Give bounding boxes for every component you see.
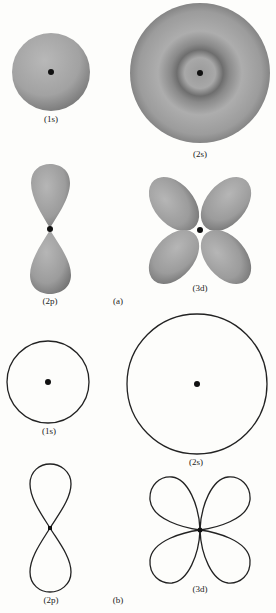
nucleus-dot (194, 381, 200, 387)
shaded-3d-orbital (139, 167, 261, 293)
label-2s-outline: (2s) (189, 457, 203, 467)
nucleus-dot (197, 70, 203, 76)
part-b-tag: (b) (113, 595, 124, 605)
label-3d-outline: (3d) (193, 584, 208, 594)
part-a-tag: (a) (113, 296, 123, 306)
nucleus-dot (48, 69, 54, 75)
label-3d-shaded: (3d) (193, 283, 208, 293)
nucleus-dot (47, 226, 53, 232)
label-1s-shaded: (1s) (44, 114, 58, 124)
label-2s-shaded: (2s) (193, 149, 207, 159)
label-1s-outline: (1s) (42, 426, 56, 436)
nucleus-dot (198, 528, 203, 533)
shaded-1s-orbital (12, 33, 90, 111)
nucleus-dot (197, 227, 203, 233)
orbital-figure (0, 0, 276, 613)
label-2p-shaded: (2p) (43, 296, 58, 306)
shaded-2s-orbital (130, 3, 270, 143)
shaded-2p-orbital (30, 164, 71, 294)
nucleus-dot (45, 379, 51, 385)
nucleus-dot (48, 526, 52, 530)
label-2p-outline: (2p) (44, 595, 59, 605)
